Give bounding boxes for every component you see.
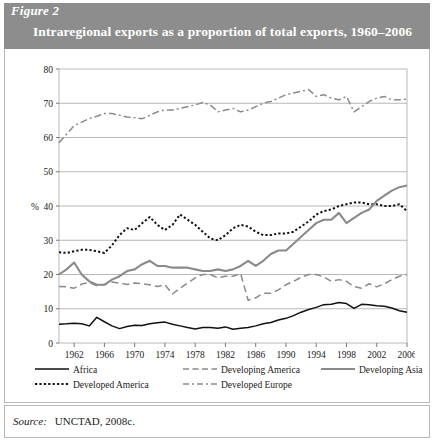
- legend-label-developing-america: Developing America: [221, 365, 300, 375]
- line-chart: 01020304050607080%1962196619701974197819…: [21, 61, 415, 395]
- x-tick-label: 1990: [276, 350, 295, 360]
- x-tick-label: 1966: [95, 350, 114, 360]
- y-tick-label: 30: [44, 236, 54, 246]
- y-tick-label: 40: [44, 202, 54, 212]
- chart-legend: AfricaDeveloping AmericaDeveloping AsiaD…: [35, 364, 415, 398]
- x-tick-label: 2006: [398, 350, 416, 360]
- x-tick-label: 1978: [186, 350, 205, 360]
- x-tick-label: 1982: [216, 350, 235, 360]
- y-tick-label: 10: [44, 304, 54, 314]
- legend-label-developed-america: Developed America: [73, 380, 149, 390]
- x-tick-label: 1962: [65, 350, 84, 360]
- y-tick-label: 50: [44, 167, 54, 177]
- y-tick-label: 70: [44, 99, 54, 109]
- legend-item-developed-europe: Developed Europe: [183, 379, 292, 394]
- legend-item-developing-america: Developing America: [183, 364, 300, 379]
- legend-swatch-developing-asia: [321, 364, 355, 374]
- legend-item-developed-america: Developed America: [35, 379, 149, 394]
- legend-label-developing-asia: Developing Asia: [359, 365, 423, 375]
- source-value: UNCTAD, 2008c.: [55, 415, 135, 427]
- x-tick-label: 1974: [155, 350, 174, 360]
- legend-swatch-africa: [35, 364, 69, 374]
- legend-label-africa: Africa: [73, 365, 97, 375]
- figure-container: Figure 2 Intraregional exports as a prop…: [0, 0, 434, 443]
- figure-title: Intraregional exports as a proportion of…: [33, 24, 412, 40]
- y-tick-label: 80: [44, 65, 54, 75]
- figure-body: 01020304050607080%1962196619701974197819…: [4, 49, 430, 403]
- x-tick-label: 1998: [337, 350, 356, 360]
- y-axis-label: %: [31, 202, 39, 212]
- x-tick-label: 2002: [367, 350, 386, 360]
- x-tick-label: 1970: [125, 350, 144, 360]
- legend-swatch-developing-america: [183, 364, 217, 374]
- x-tick-label: 1986: [246, 350, 265, 360]
- legend-item-africa: Africa: [35, 364, 97, 379]
- source-box: Source:UNCTAD, 2008c.: [4, 405, 430, 438]
- y-tick-label: 20: [44, 270, 54, 280]
- y-tick-label: 0: [48, 339, 53, 349]
- y-tick-label: 60: [44, 133, 54, 143]
- figure-label: Figure 2: [11, 3, 59, 19]
- legend-item-developing-asia: Developing Asia: [321, 364, 423, 379]
- legend-swatch-developed-europe: [183, 379, 217, 389]
- source-line: Source:UNCTAD, 2008c.: [13, 415, 135, 427]
- x-tick-label: 1994: [307, 350, 326, 360]
- chart-plot-area: 01020304050607080%1962196619701974197819…: [21, 61, 415, 395]
- source-label: Source:: [13, 415, 47, 427]
- legend-swatch-developed-america: [35, 379, 69, 389]
- legend-label-developed-europe: Developed Europe: [221, 380, 292, 390]
